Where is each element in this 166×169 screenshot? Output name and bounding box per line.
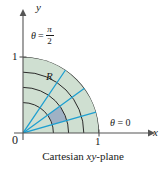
y-axis-label: y xyxy=(36,2,41,13)
theta-zero-equation: = 0 xyxy=(115,117,131,128)
caption-italic-part: xy xyxy=(87,150,97,162)
caption-suffix: -plane xyxy=(96,150,123,162)
y-tick-label-1: 1 xyxy=(12,51,18,62)
x-axis-label: x xyxy=(153,127,158,138)
cartesian-xy-plane-figure: y x 1 1 0 R θ = 0 θ = π 2 Cartesian xy-p… xyxy=(0,0,166,169)
x-tick-label-1: 1 xyxy=(95,136,101,147)
figure-canvas xyxy=(0,0,166,169)
fraction-numerator: π xyxy=(46,25,53,35)
theta-half-pi-equals: = xyxy=(38,31,44,41)
fraction-denominator: 2 xyxy=(46,36,53,46)
pi-over-two-fraction: π 2 xyxy=(46,25,54,46)
theta-half-pi-symbol: θ xyxy=(31,31,36,41)
arrow-up-icon xyxy=(20,9,27,16)
theta-half-pi-label: θ = π 2 xyxy=(31,25,54,46)
region-label-R: R xyxy=(46,71,53,82)
origin-label: 0 xyxy=(12,134,18,146)
theta-zero-label: θ = 0 xyxy=(110,118,131,128)
figure-caption: Cartesian xy-plane xyxy=(0,150,166,162)
caption-prefix: Cartesian xyxy=(42,150,86,162)
